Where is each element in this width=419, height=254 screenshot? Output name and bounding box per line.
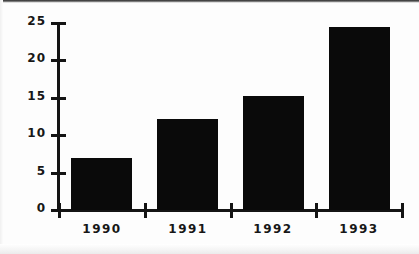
bar-1990 bbox=[71, 158, 132, 210]
x-tick-mark bbox=[315, 203, 318, 218]
y-tick-5: 5 bbox=[0, 172, 70, 175]
y-tick-label: 10 bbox=[18, 126, 46, 140]
x-tick-mark bbox=[230, 203, 233, 218]
y-tick-10: 10 bbox=[0, 134, 70, 137]
y-tick-20: 20 bbox=[0, 59, 70, 62]
y-tick-mark bbox=[51, 134, 66, 137]
x-tick-mark bbox=[401, 203, 404, 218]
y-tick-mark bbox=[51, 97, 66, 100]
x-tick-label-1991: 1991 bbox=[143, 222, 233, 236]
x-tick-mark bbox=[58, 203, 61, 218]
y-tick-label: 15 bbox=[18, 89, 46, 103]
x-tick-label-1992: 1992 bbox=[228, 222, 318, 236]
y-tick-label: 5 bbox=[18, 164, 46, 178]
y-tick-15: 15 bbox=[0, 97, 70, 100]
y-tick-25: 25 bbox=[0, 22, 70, 25]
chart-image: 0510152025 1990199119921993 bbox=[0, 0, 419, 254]
bar-1992 bbox=[243, 96, 304, 210]
y-tick-mark bbox=[51, 59, 66, 62]
bar-chart-plot: 0510152025 1990199119921993 bbox=[0, 0, 419, 254]
y-tick-label: 0 bbox=[18, 201, 46, 215]
y-tick-label: 25 bbox=[18, 14, 46, 28]
bar-1991 bbox=[157, 119, 218, 210]
y-tick-mark bbox=[51, 172, 66, 175]
y-tick-mark bbox=[51, 22, 66, 25]
x-tick-mark bbox=[144, 203, 147, 218]
x-tick-label-1993: 1993 bbox=[314, 222, 404, 236]
y-tick-label: 20 bbox=[18, 51, 46, 65]
bar-1993 bbox=[329, 27, 390, 210]
x-tick-label-1990: 1990 bbox=[57, 222, 147, 236]
y-axis-line bbox=[57, 22, 60, 212]
